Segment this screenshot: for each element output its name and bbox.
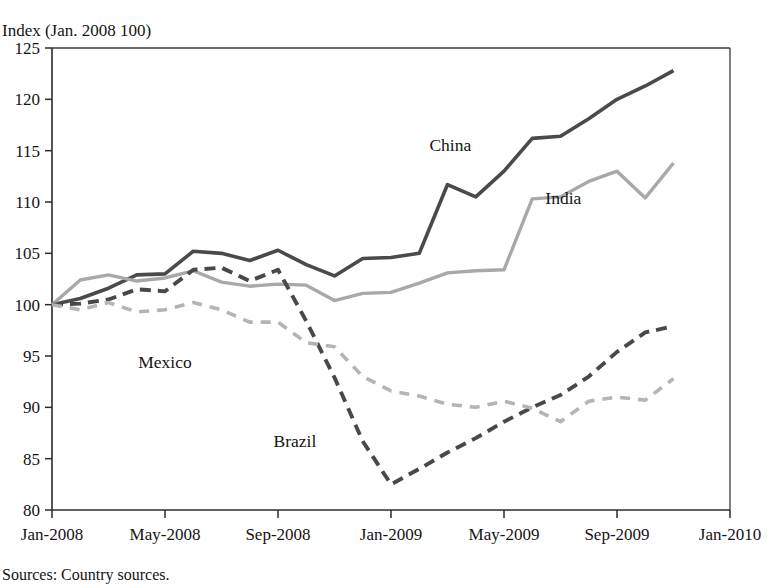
y-tick-label: 110	[15, 193, 40, 212]
y-tick-label: 85	[23, 450, 40, 469]
y-tick-label: 90	[23, 398, 40, 417]
x-tick-label: Jan-2009	[360, 525, 422, 544]
series-line-india	[52, 163, 674, 305]
y-tick-label: 125	[15, 39, 41, 58]
series-line-brazil	[52, 268, 674, 485]
x-tick-label: May-2009	[469, 525, 540, 544]
line-chart-figure: Index (Jan. 2008 100)8085909510010511011…	[0, 0, 769, 586]
y-tick-label: 115	[15, 142, 40, 161]
series-label-india: India	[545, 188, 581, 208]
x-tick-label: Jan-2010	[699, 525, 761, 544]
y-tick-label: 100	[15, 296, 41, 315]
y-tick-label: 105	[15, 244, 41, 263]
y-axis-title: Index (Jan. 2008 100)	[2, 21, 151, 40]
x-tick-label: Sep-2008	[245, 525, 310, 544]
series-label-mexico: Mexico	[138, 352, 192, 372]
series-label-china: China	[429, 135, 471, 155]
y-tick-label: 95	[23, 347, 40, 366]
x-tick-label: May-2008	[130, 525, 201, 544]
series-label-brazil: Brazil	[274, 431, 317, 451]
x-tick-label: Sep-2009	[584, 525, 649, 544]
x-tick-label: Jan-2008	[21, 525, 83, 544]
y-tick-label: 80	[23, 501, 40, 520]
y-tick-label: 120	[15, 90, 41, 109]
source-note: Sources: Country sources.	[2, 566, 170, 584]
